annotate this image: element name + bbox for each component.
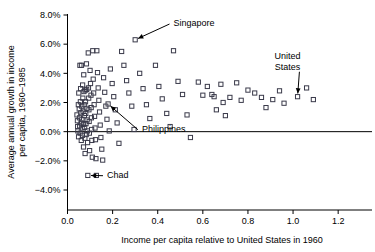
x-tick-label: 0.2: [106, 216, 119, 226]
x-tick-label: 1.0: [287, 216, 300, 226]
y-tick-label: 4.0%: [40, 69, 61, 79]
x-tick-label: 1.2: [332, 216, 345, 226]
y-tick-label: 8.0%: [40, 10, 61, 20]
y-axis-title-line-2: per capita, 1960–1985: [17, 67, 27, 157]
x-tick-label: 0.8: [242, 216, 255, 226]
chart-canvas: −4.0%−2.0%0.0%2.0%4.0%6.0%8.0% 0.00.20.4…: [0, 0, 375, 252]
annotation-label: United: [274, 51, 300, 61]
y-axis-title-line-1: Average annual growth in income: [6, 45, 16, 178]
annotation-label: Philippines: [142, 124, 186, 134]
x-tick-label: 0.4: [151, 216, 164, 226]
y-tick-label: 2.0%: [40, 98, 61, 108]
scatter-chart-figure: −4.0%−2.0%0.0%2.0%4.0%6.0%8.0% 0.00.20.4…: [0, 0, 375, 252]
annotation-label: Chad: [107, 170, 129, 180]
y-tick-label: −2.0%: [35, 156, 61, 166]
annotation-label: Singapore: [174, 18, 215, 28]
y-tick-label: 6.0%: [40, 39, 61, 49]
x-axis-title: Income per capita relative to United Sta…: [121, 235, 323, 245]
x-tick-label: 0.0: [61, 216, 74, 226]
annotation-label: States: [275, 62, 301, 72]
y-tick-label: −4.0%: [35, 185, 61, 195]
y-tick-label: 0.0%: [40, 127, 61, 137]
x-tick-label: 0.6: [197, 216, 210, 226]
